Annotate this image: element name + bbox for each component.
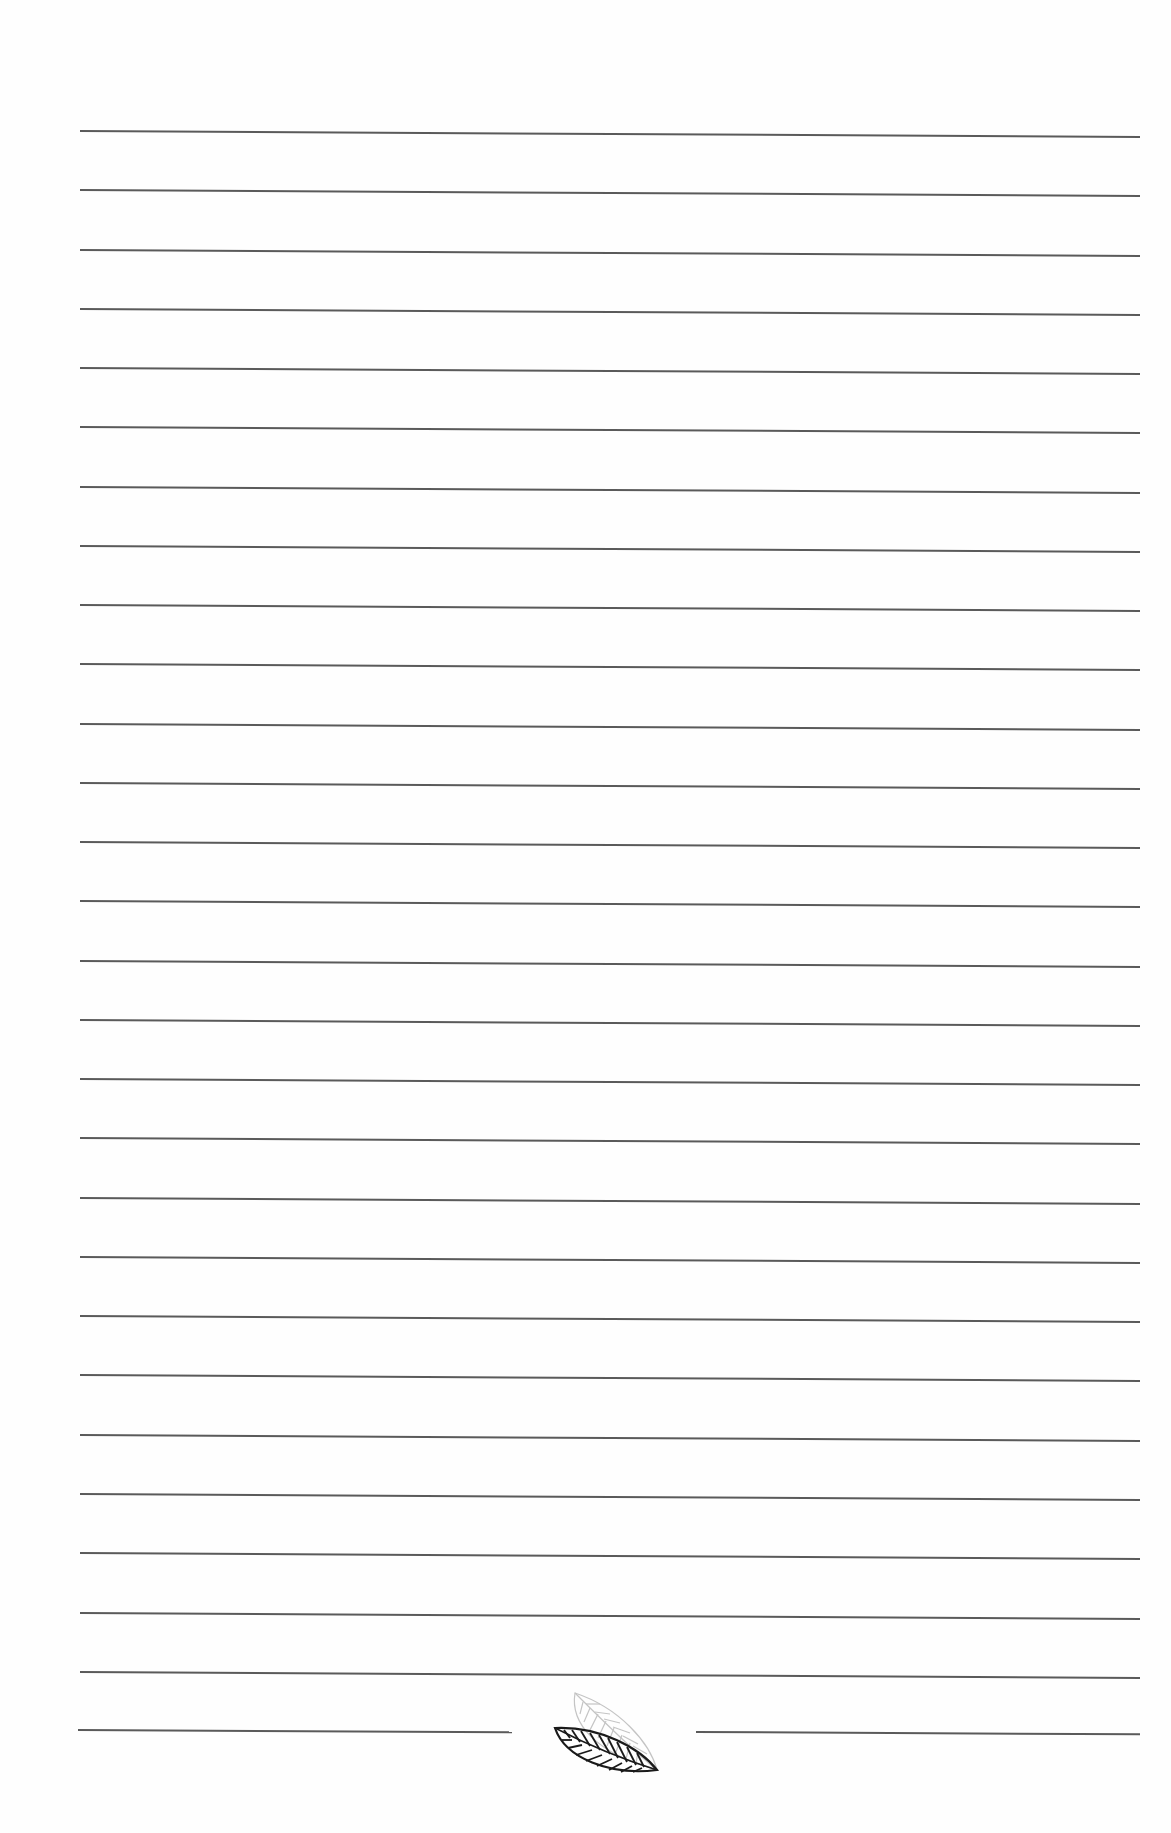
ruled-line	[80, 130, 1140, 138]
ruled-line	[80, 1137, 1140, 1145]
ruled-line	[80, 1019, 1140, 1027]
ruled-line	[80, 486, 1140, 494]
ruled-line	[80, 1552, 1140, 1560]
ruled-line	[80, 1671, 1140, 1679]
ruled-line	[80, 249, 1140, 257]
ruled-line	[80, 960, 1140, 968]
ruled-line	[80, 1256, 1140, 1264]
ruled-line	[80, 1078, 1140, 1086]
ruled-line	[80, 663, 1140, 671]
ruled-line	[80, 1434, 1140, 1442]
footer-rule-right	[696, 1731, 1140, 1735]
ruled-line	[80, 367, 1140, 375]
ruled-line	[80, 189, 1140, 197]
ruled-line	[80, 545, 1140, 553]
ruled-line	[80, 1374, 1140, 1382]
ruled-line	[80, 900, 1140, 908]
ruled-line	[80, 1612, 1140, 1620]
ruled-line	[80, 1197, 1140, 1205]
leaf-icon	[550, 1688, 665, 1778]
ruled-line	[80, 1315, 1140, 1323]
ruled-line	[80, 723, 1140, 731]
ruled-line	[80, 782, 1140, 790]
ruled-line	[80, 426, 1140, 434]
notebook-page	[0, 0, 1171, 1833]
ruled-line	[80, 604, 1140, 612]
footer-rule-left	[78, 1729, 512, 1733]
ruled-line	[80, 1493, 1140, 1501]
ruled-line	[80, 841, 1140, 849]
ruled-line	[80, 308, 1140, 316]
